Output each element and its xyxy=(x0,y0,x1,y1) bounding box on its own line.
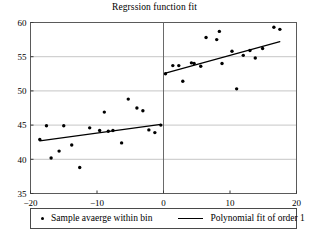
x-tick-label: 20 xyxy=(292,198,302,208)
x-tick-label: −20 xyxy=(23,198,38,208)
y-tick-label: 35 xyxy=(18,189,28,199)
y-tick-label: 40 xyxy=(18,155,28,165)
y-tick-label: 60 xyxy=(18,18,28,28)
legend-dot-icon xyxy=(41,217,44,220)
regression-discontinuity-figure: Regrssion function fit −20−1001020 35404… xyxy=(0,0,309,236)
chart-legend: Sample avaerge within bin Polynomial fit… xyxy=(30,208,297,229)
legend-entry-polynomial-fit: Polynomial fit of order 1 xyxy=(178,214,304,224)
y-tick-label: 55 xyxy=(18,52,28,62)
x-tick-label: 10 xyxy=(226,198,236,208)
x-tick-label: −10 xyxy=(90,198,105,208)
legend-label-polynomial-fit: Polynomial fit of order 1 xyxy=(210,214,304,224)
x-tick-label: 0 xyxy=(161,198,166,208)
y-tick-label: 45 xyxy=(18,120,28,130)
x-axis-tick-labels: −20−1001020 xyxy=(23,198,301,208)
y-axis-tick-labels: 354045505560 xyxy=(18,18,28,199)
legend-line-icon xyxy=(178,218,203,219)
legend-entry-sample-average: Sample avaerge within bin xyxy=(41,214,152,224)
y-tick-label: 50 xyxy=(18,86,28,96)
plot-area: −20−1001020 354045505560 xyxy=(0,0,309,236)
legend-label-sample-average: Sample avaerge within bin xyxy=(51,214,152,224)
data-point-markers xyxy=(38,26,281,170)
